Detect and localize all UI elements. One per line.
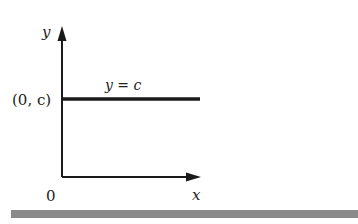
intercept-label: (0, c) bbox=[12, 91, 51, 109]
x-axis-arrow-icon bbox=[186, 173, 201, 182]
y-axis-label: y bbox=[41, 23, 51, 41]
bottom-rule bbox=[11, 210, 358, 218]
y-axis-arrow-icon bbox=[58, 26, 67, 41]
x-axis-label: x bbox=[192, 186, 201, 204]
constant-function-graph: y x 0 y = c (0, c) bbox=[0, 0, 358, 224]
origin-label: 0 bbox=[46, 187, 56, 205]
equation-label: y = c bbox=[104, 77, 142, 93]
